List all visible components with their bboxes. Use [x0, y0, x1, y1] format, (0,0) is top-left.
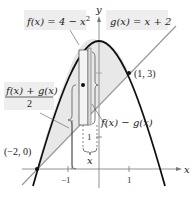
point-neg2-0 — [35, 167, 39, 171]
x-axis-label: x — [184, 164, 190, 175]
point-1-3-label: (1, 3) — [134, 68, 156, 80]
representative-rectangle — [79, 50, 88, 125]
y-axis-arrow-icon — [97, 16, 101, 22]
f-label: f(x) = 4 − x2 — [26, 15, 90, 27]
diff-label: f(x) − g(x) — [100, 117, 153, 128]
x-tick-neg1-label: −1 — [61, 175, 71, 185]
g-label: g(x) = x + 2 — [110, 16, 171, 27]
avg-label-numerator: f(x) + g(x) — [5, 85, 58, 96]
y-axis-label: y — [95, 4, 102, 15]
centroid-point — [81, 83, 85, 87]
point-1-3 — [127, 71, 131, 75]
centroid-region-figure: f(x) = 4 − x2 g(x) = x + 2 y x f(x) + g(… — [0, 0, 192, 197]
f-leader — [70, 30, 79, 45]
rectangle-side — [88, 48, 91, 125]
point-neg2-0-label: (−2, 0) — [4, 146, 31, 158]
x-axis-arrow-icon — [176, 167, 182, 171]
x-width-brace — [83, 148, 97, 155]
x-tick-1-label: 1 — [127, 175, 132, 185]
avg-label-denominator: 2 — [27, 98, 32, 109]
rect-width-label: x — [87, 155, 93, 166]
y-tick-1-label: 1 — [87, 132, 92, 142]
